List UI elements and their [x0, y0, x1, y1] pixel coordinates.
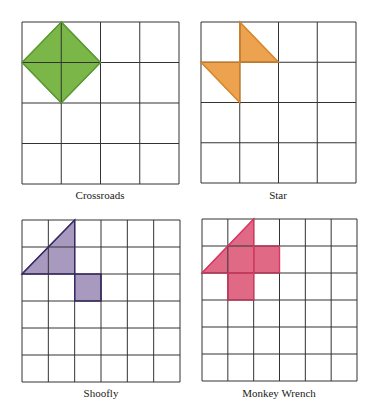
monkey-wrench-caption: Monkey Wrench: [219, 387, 339, 399]
shaded-shape: [254, 246, 280, 273]
monkey-wrench-grid-diagram: [0, 0, 378, 415]
grid-lines: [202, 219, 357, 381]
shaded-shape: [228, 273, 254, 300]
